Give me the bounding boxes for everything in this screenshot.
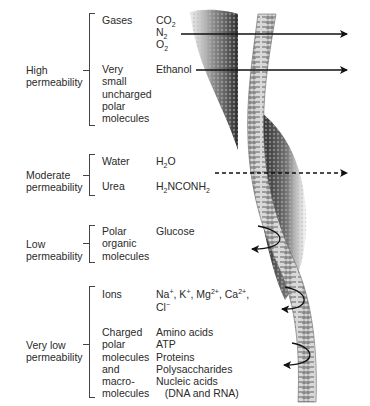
arrow-charged-bounce-icon bbox=[284, 343, 310, 365]
arrow-glucose-bounce-icon bbox=[252, 226, 280, 249]
arrow-ions-bounce-icon bbox=[282, 287, 304, 309]
arrows-layer bbox=[0, 0, 370, 406]
